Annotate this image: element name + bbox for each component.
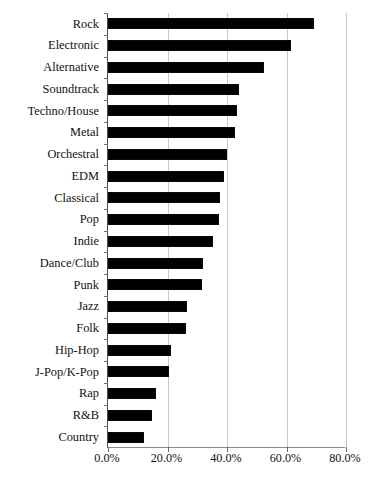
y-axis-tick-mark: [104, 144, 108, 145]
bar-chart: RockElectronicAlternativeSoundtrackTechn…: [0, 0, 374, 484]
y-axis-category-label: Indie: [0, 235, 99, 247]
y-axis-category-label: Jazz: [0, 300, 99, 312]
x-axis-tick-label: 40.0%: [210, 452, 241, 465]
x-axis-tick-label: 0.0%: [94, 452, 119, 465]
y-axis-category-label: Orchestral: [0, 148, 99, 160]
y-axis-category-label: Dance/Club: [0, 257, 99, 269]
bar: [108, 192, 220, 203]
bar: [108, 432, 144, 443]
bar: [108, 84, 239, 95]
y-axis-tick-mark: [104, 426, 108, 427]
y-axis-tick-mark: [104, 231, 108, 232]
y-axis-tick-mark: [104, 100, 108, 101]
bar-row: [108, 258, 345, 269]
bar-row: [108, 62, 345, 73]
bar-row: [108, 171, 345, 182]
bar: [108, 258, 203, 269]
y-axis-tick-mark: [104, 209, 108, 210]
bar: [108, 388, 156, 399]
bar-row: [108, 192, 345, 203]
y-axis-category-label: Alternative: [0, 61, 99, 73]
bar-row: [108, 432, 345, 443]
y-axis-category-label: Hip-Hop: [0, 344, 99, 356]
bar-row: [108, 236, 345, 247]
y-axis-tick-mark: [104, 318, 108, 319]
y-axis-tick-mark: [104, 165, 108, 166]
bar: [108, 40, 291, 51]
bar-row: [108, 301, 345, 312]
y-axis-category-label: Rap: [0, 387, 99, 399]
bar: [108, 236, 213, 247]
gridline: [168, 13, 169, 447]
bar-row: [108, 323, 345, 334]
y-axis-tick-mark: [104, 122, 108, 123]
bar-row: [108, 214, 345, 225]
y-axis-category-label: Folk: [0, 322, 99, 334]
bar: [108, 105, 237, 116]
y-axis-category-labels: RockElectronicAlternativeSoundtrackTechn…: [0, 13, 103, 448]
gridline: [227, 13, 228, 447]
bar: [108, 301, 187, 312]
y-axis-tick-mark: [104, 383, 108, 384]
bar: [108, 149, 227, 160]
x-axis-tick-labels: 0.0%20.0%40.0%60.0%80.0%: [0, 452, 374, 472]
y-axis-tick-mark: [104, 296, 108, 297]
y-axis-tick-mark: [104, 35, 108, 36]
y-axis-tick-mark: [104, 187, 108, 188]
gridline: [287, 13, 288, 447]
bar: [108, 127, 235, 138]
y-axis-tick-mark: [104, 78, 108, 79]
y-axis-category-label: Country: [0, 431, 99, 443]
bar-row: [108, 410, 345, 421]
y-axis-tick-mark: [104, 361, 108, 362]
bar: [108, 18, 314, 29]
y-axis-category-label: R&B: [0, 409, 99, 421]
y-axis-category-label: Classical: [0, 192, 99, 204]
x-axis-tick-label: 80.0%: [329, 452, 360, 465]
y-axis-category-label: Rock: [0, 18, 99, 30]
bar: [108, 171, 224, 182]
y-axis-tick-mark: [104, 252, 108, 253]
bar: [108, 62, 264, 73]
y-axis-category-label: Punk: [0, 279, 99, 291]
y-axis-tick-mark: [104, 274, 108, 275]
bar-row: [108, 345, 345, 356]
y-axis-category-label: Metal: [0, 126, 99, 138]
bar-row: [108, 366, 345, 377]
bar: [108, 323, 186, 334]
y-axis-category-label: Pop: [0, 213, 99, 225]
y-axis-category-label: Techno/House: [0, 105, 99, 117]
bar-row: [108, 279, 345, 290]
y-axis-category-label: EDM: [0, 170, 99, 182]
bar: [108, 345, 171, 356]
bar: [108, 410, 152, 421]
bar: [108, 214, 219, 225]
x-axis-tick-label: 20.0%: [151, 452, 182, 465]
bar-row: [108, 84, 345, 95]
bar: [108, 279, 202, 290]
y-axis-tick-mark: [104, 13, 108, 14]
y-axis-category-label: Soundtrack: [0, 83, 99, 95]
plot-area: [107, 13, 345, 448]
bar-row: [108, 105, 345, 116]
y-axis-category-label: J-Pop/K-Pop: [0, 366, 99, 378]
bar: [108, 366, 169, 377]
bar-row: [108, 18, 345, 29]
y-axis-tick-mark: [104, 405, 108, 406]
gridline: [346, 13, 347, 447]
y-axis-tick-mark: [104, 339, 108, 340]
bar-row: [108, 127, 345, 138]
bar-row: [108, 149, 345, 160]
y-axis-tick-mark: [104, 57, 108, 58]
bar-row: [108, 40, 345, 51]
y-axis-category-label: Electronic: [0, 39, 99, 51]
bar-row: [108, 388, 345, 399]
x-axis-tick-label: 60.0%: [270, 452, 301, 465]
